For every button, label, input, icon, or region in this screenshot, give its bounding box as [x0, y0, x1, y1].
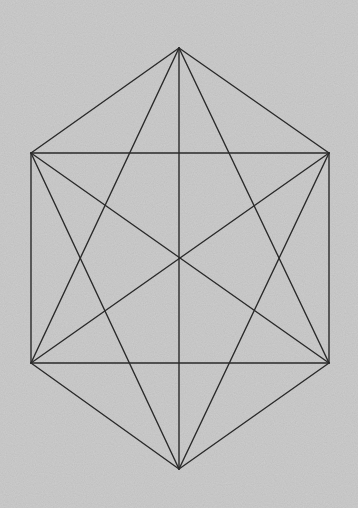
hexagon-star-figure [0, 0, 358, 508]
hexagon-diagram [0, 0, 358, 508]
